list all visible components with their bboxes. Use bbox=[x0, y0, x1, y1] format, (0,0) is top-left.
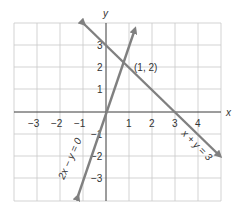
x-tick: −1 bbox=[74, 118, 86, 129]
coordinate-plane: x y −3 −2 −1 1 2 3 4 3 2 1 −1 −2 −3 (1, … bbox=[0, 0, 239, 212]
y-tick: 2 bbox=[97, 62, 103, 73]
x-tick: −2 bbox=[51, 118, 63, 129]
y-tick: 1 bbox=[97, 84, 103, 95]
intersection-label: (1, 2) bbox=[134, 62, 157, 73]
x-tick: −3 bbox=[28, 118, 40, 129]
x-tick: 1 bbox=[126, 118, 132, 129]
x-tick: 4 bbox=[195, 118, 201, 129]
x-axis-label: x bbox=[225, 107, 232, 118]
y-axis-label: y bbox=[102, 8, 109, 19]
x-tick: 2 bbox=[149, 118, 155, 129]
y-tick: −3 bbox=[91, 173, 103, 184]
x-tick: 3 bbox=[172, 118, 178, 129]
